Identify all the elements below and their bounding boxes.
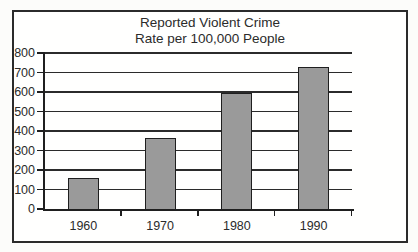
y-axis-label: 800 <box>0 46 35 60</box>
x-axis-tick <box>351 211 353 216</box>
bar <box>298 67 329 209</box>
y-axis-tick <box>37 111 45 113</box>
x-axis-tick <box>197 211 199 216</box>
y-axis-label: 0 <box>0 202 35 216</box>
x-axis-tick <box>120 211 122 216</box>
chart-title: Reported Violent Crime Rate per 100,000 … <box>14 15 406 48</box>
y-axis-tick <box>37 130 45 132</box>
y-axis-label: 400 <box>0 124 35 138</box>
chart-frame: Reported Violent Crime Rate per 100,000 … <box>12 10 408 243</box>
x-axis-tick <box>274 211 276 216</box>
y-axis-label: 200 <box>0 163 35 177</box>
x-axis-label: 1990 <box>288 219 340 233</box>
x-axis-label: 1960 <box>57 219 109 233</box>
x-axis-line <box>43 209 354 211</box>
y-axis-tick <box>37 208 45 210</box>
y-axis-label: 700 <box>0 66 35 80</box>
y-axis-label: 100 <box>0 183 35 197</box>
y-axis-tick <box>37 91 45 93</box>
x-axis-label: 1980 <box>211 219 263 233</box>
bar <box>145 138 176 209</box>
y-axis-tick <box>37 72 45 74</box>
plot-area: 0100200300400500600700800196019701980199… <box>45 53 352 209</box>
y-axis-tick <box>37 169 45 171</box>
bar <box>221 93 252 209</box>
y-axis-label: 600 <box>0 85 35 99</box>
bar <box>68 178 99 209</box>
y-axis-label: 300 <box>0 144 35 158</box>
y-axis-tick <box>37 189 45 191</box>
y-axis-tick <box>37 52 45 54</box>
y-axis-tick <box>37 150 45 152</box>
x-axis-label: 1970 <box>134 219 186 233</box>
y-axis-label: 500 <box>0 105 35 119</box>
gridline <box>45 52 352 54</box>
